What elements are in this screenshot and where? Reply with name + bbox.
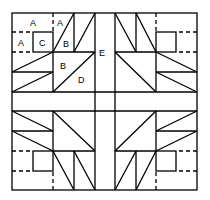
label-b-lower: B (60, 61, 66, 71)
label-c: C (39, 38, 46, 48)
label-a-left: A (18, 38, 24, 48)
label-b-upper: B (63, 39, 69, 49)
quadrant-bottom-left (12, 111, 95, 190)
label-a-right: A (57, 18, 63, 28)
label-d: D (78, 75, 85, 85)
quadrant-bottom-right (115, 111, 197, 190)
quilt-block-diagram: A A A C B B D E (0, 0, 210, 200)
quadrant-top-right (115, 13, 197, 92)
label-e: E (99, 48, 105, 58)
label-a-top: A (30, 18, 36, 28)
